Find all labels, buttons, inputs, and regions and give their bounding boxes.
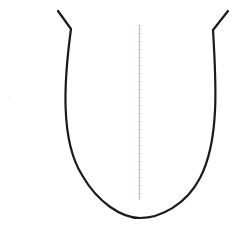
- tongue-outline: [58, 11, 228, 218]
- tongue-diagram: [0, 0, 240, 232]
- stray-dot: [9, 97, 10, 98]
